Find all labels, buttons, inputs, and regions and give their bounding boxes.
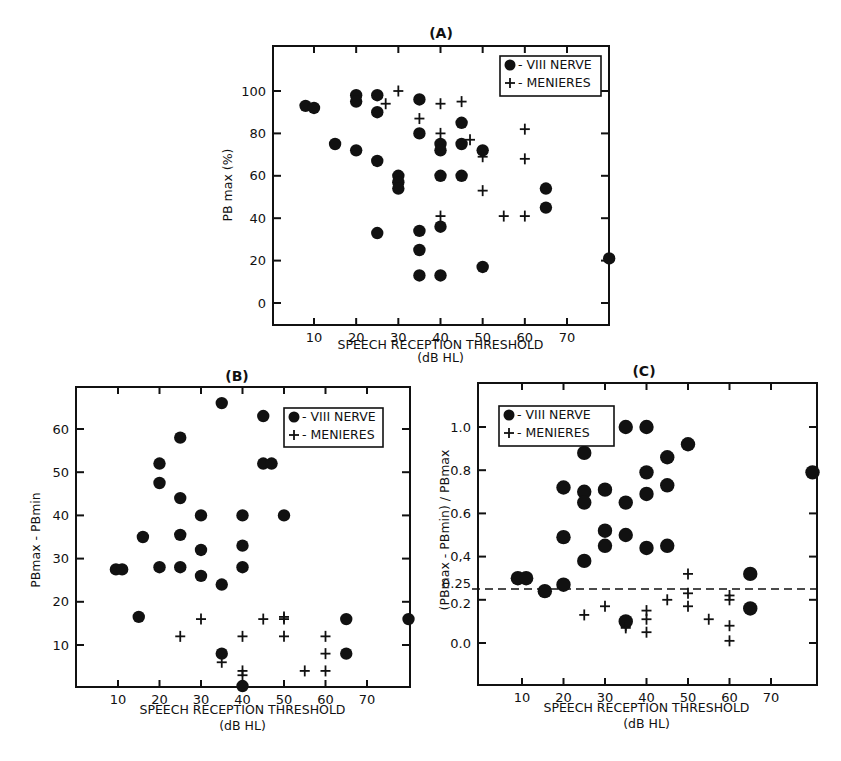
x-tick-label: 70 xyxy=(559,330,576,345)
figure-canvas: (A)10203040506070020406080100SPEECH RECE… xyxy=(0,0,841,761)
data-point xyxy=(455,170,467,182)
series-menieres xyxy=(175,611,330,680)
data-point xyxy=(371,89,383,101)
y-axis-title: PB max (%) xyxy=(220,149,235,222)
data-point xyxy=(308,102,320,114)
y-tick-label: 60 xyxy=(52,422,69,437)
data-point xyxy=(540,182,552,194)
series-viii-nerve xyxy=(511,420,820,629)
chart-title: (A) xyxy=(429,25,453,41)
data-point xyxy=(402,613,414,625)
data-point xyxy=(660,478,674,492)
data-point xyxy=(413,127,425,139)
series-menieres xyxy=(381,86,530,222)
legend-entry-menieres: - MENIERES xyxy=(302,427,375,442)
data-point xyxy=(413,269,425,281)
data-point xyxy=(133,611,145,623)
y-tick-label: 30 xyxy=(52,551,69,566)
data-point xyxy=(236,539,248,551)
legend-entry-menieres: - MENIERES xyxy=(517,425,590,440)
data-point xyxy=(371,227,383,239)
data-point xyxy=(598,523,612,537)
series-viii-nerve xyxy=(299,89,615,282)
y-axis-title: PBmax - PBmin xyxy=(28,492,43,588)
data-point xyxy=(434,144,446,156)
legend-entry-viii-nerve: - VIII NERVE xyxy=(302,409,376,424)
data-point xyxy=(329,138,341,150)
x-axis-unit: (dB HL) xyxy=(623,716,670,731)
data-point xyxy=(371,106,383,118)
x-axis-unit: (dB HL) xyxy=(219,718,266,733)
data-point xyxy=(556,530,570,544)
data-point xyxy=(577,554,591,568)
data-point xyxy=(619,420,633,434)
chart-panel-b: (B)10203040506070102030405060SPEECH RECE… xyxy=(28,368,415,733)
y-tick-label: 0 xyxy=(258,296,266,311)
x-tick-label: 10 xyxy=(306,330,323,345)
data-point xyxy=(639,465,653,479)
data-point xyxy=(216,578,228,590)
data-point xyxy=(603,252,615,264)
data-point xyxy=(639,541,653,555)
data-point xyxy=(340,647,352,659)
y-tick-label: 10 xyxy=(52,638,69,653)
data-point xyxy=(743,567,757,581)
y-tick-label: 20 xyxy=(249,253,266,268)
data-point xyxy=(371,155,383,167)
y-tick-label: 0.2 xyxy=(450,596,471,611)
x-tick-label: 10 xyxy=(514,690,531,705)
y-tick-label: 0,4 xyxy=(450,549,471,564)
chart-title: (C) xyxy=(632,363,655,379)
y-axis-title: (PBmax - PBmin) / PBmax xyxy=(437,450,452,611)
data-point xyxy=(174,431,186,443)
data-point xyxy=(434,220,446,232)
y-tick-label: 0.0 xyxy=(450,636,471,651)
data-point xyxy=(577,446,591,460)
data-point xyxy=(195,570,207,582)
x-axis-title: SPEECH RECEPTION THRESHOLD xyxy=(140,702,346,717)
data-point xyxy=(540,201,552,213)
y-tick-label: 80 xyxy=(249,126,266,141)
legend-entry-viii-nerve: - VIII NERVE xyxy=(517,407,591,422)
data-point xyxy=(174,492,186,504)
data-point xyxy=(174,529,186,541)
x-tick-label: 70 xyxy=(763,690,780,705)
data-point xyxy=(195,509,207,521)
data-point xyxy=(434,269,446,281)
data-point xyxy=(350,95,362,107)
data-point xyxy=(598,482,612,496)
data-point xyxy=(598,539,612,553)
y-tick-label: 0.6 xyxy=(450,506,471,521)
x-tick-label: 70 xyxy=(359,692,376,707)
legend: - VIII NERVE- MENIERES xyxy=(284,408,383,447)
data-point xyxy=(577,495,591,509)
data-point xyxy=(278,509,290,521)
data-point xyxy=(153,457,165,469)
chart-panel-c: (C)102030405060700.00.20.250,40.60.81.0S… xyxy=(437,363,820,731)
data-point xyxy=(413,225,425,237)
data-point xyxy=(434,170,446,182)
data-point xyxy=(413,93,425,105)
data-point xyxy=(413,244,425,256)
y-tick-label: 40 xyxy=(249,211,266,226)
series-menieres xyxy=(579,568,734,646)
data-point xyxy=(236,561,248,573)
chart-panel-a: (A)10203040506070020406080100SPEECH RECE… xyxy=(220,25,615,365)
data-point xyxy=(340,613,352,625)
legend-circle-icon xyxy=(504,410,515,421)
data-point xyxy=(556,480,570,494)
data-point xyxy=(639,487,653,501)
legend-entry-menieres: - MENIERES xyxy=(518,75,591,90)
data-point xyxy=(195,544,207,556)
data-point xyxy=(743,601,757,615)
data-point xyxy=(174,561,186,573)
data-point xyxy=(350,144,362,156)
y-tick-label: 40 xyxy=(52,508,69,523)
y-tick-label: 100 xyxy=(241,84,266,99)
data-point xyxy=(236,509,248,521)
data-point xyxy=(137,531,149,543)
data-point xyxy=(265,457,277,469)
y-tick-label: 0.8 xyxy=(450,463,471,478)
x-axis-unit: (dB HL) xyxy=(417,350,464,365)
data-point xyxy=(639,420,653,434)
